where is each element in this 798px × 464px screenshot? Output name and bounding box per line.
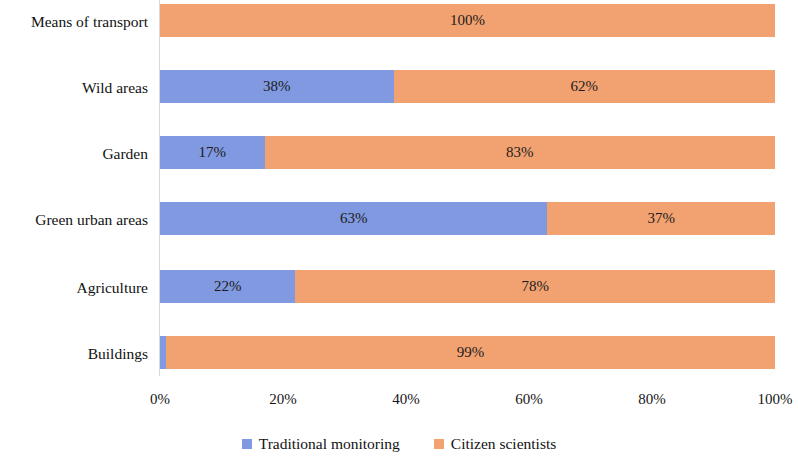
plot-area: 100%38%62%17%83%63%37%22%78%99% [160,0,775,380]
bar-value-label: 83% [506,145,534,160]
x-axis-tick: 60% [515,392,543,407]
bar-row: 22%78% [160,270,775,303]
bar-segment-traditional-monitoring: 63% [160,202,547,235]
bar-value-label: 100% [450,13,485,28]
bar-segment-traditional-monitoring: 38% [160,70,394,103]
x-axis-tick: 100% [758,392,793,407]
bar-segment-citizen-scientists: 83% [265,136,775,169]
bar-value-label: 38% [263,79,291,94]
x-axis-tick: 40% [392,392,420,407]
bar-row: 63%37% [160,202,775,235]
bar-segment-traditional-monitoring: 17% [160,136,265,169]
bar-value-label: 63% [340,211,368,226]
x-axis-tick: 20% [269,392,297,407]
legend-label: Traditional monitoring [259,436,400,452]
bar-value-label: 99% [457,345,485,360]
category-label: Garden [0,146,148,162]
bar-row: 100% [160,4,775,37]
category-label: Agriculture [0,280,148,296]
bar-segment-citizen-scientists: 100% [160,4,775,37]
x-axis-tick-labels: 0%20%40%60%80%100% [160,392,775,414]
category-label: Wild areas [0,80,148,96]
bar-value-label: 62% [571,79,599,94]
bar-segment-citizen-scientists: 78% [295,270,775,303]
legend-swatch-icon [242,439,252,449]
category-label: Buildings [0,346,148,362]
bar-row: 99% [160,336,775,369]
bar-value-label: 78% [521,279,549,294]
bar-segment-citizen-scientists: 37% [547,202,775,235]
bar-value-label: 22% [214,279,242,294]
x-axis-tick: 80% [638,392,666,407]
bar-segment-citizen-scientists: 99% [166,336,775,369]
stacked-bar-chart: Means of transportWild areasGardenGreen … [0,0,798,464]
legend-item[interactable]: Citizen scientists [434,436,556,452]
bar-segment-traditional-monitoring: 22% [160,270,295,303]
chart-legend: Traditional monitoringCitizen scientists [0,436,798,452]
bar-value-label: 37% [647,211,675,226]
category-label: Means of transport [0,14,148,30]
legend-label: Citizen scientists [451,436,556,452]
bar-segment-citizen-scientists: 62% [394,70,775,103]
x-axis-tick: 0% [150,392,170,407]
category-label: Green urban areas [0,212,148,228]
bar-value-label: 17% [199,145,227,160]
bar-row: 17%83% [160,136,775,169]
legend-swatch-icon [434,439,444,449]
legend-item[interactable]: Traditional monitoring [242,436,400,452]
bar-row: 38%62% [160,70,775,103]
